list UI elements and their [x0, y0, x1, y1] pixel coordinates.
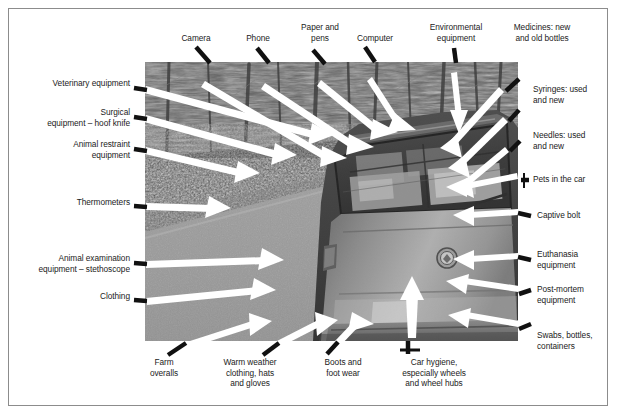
label-post-mortem-equipment: Post-mortem equipment [537, 284, 623, 305]
label-animal-examination-equipment: Animal examination equipment – stethosco… [12, 253, 130, 274]
label-thermometers: Thermometers [12, 197, 130, 208]
label-swabs-bottles-containers: Swabs, bottles, containers [537, 330, 623, 351]
label-syringes: Syringes: used and new [533, 84, 619, 105]
label-camera: Camera [163, 33, 229, 44]
label-veterinary-equipment: Veterinary equipment [12, 78, 130, 89]
label-needles: Needles: used and new [533, 130, 619, 151]
label-environmental-equipment: Environmental equipment [414, 22, 498, 43]
label-computer: Computer [341, 33, 409, 44]
vehicle-photograph [145, 62, 518, 341]
label-car-hygiene: Car hygiene, especially wheels and wheel… [372, 357, 496, 389]
label-farm-overalls: Farm overalls [128, 357, 200, 378]
figure-root: Camera Phone Paper and pens Computer Env… [0, 0, 625, 419]
label-clothing: Clothing [12, 291, 130, 302]
label-euthanasia-equipment: Euthanasia equipment [537, 249, 623, 270]
label-boots-and-foot-wear: Boots and foot wear [305, 357, 381, 378]
label-pets-in-the-car: Pets in the car [533, 174, 619, 185]
label-surgical-equipment: Surgical equipment – hoof knife [12, 107, 130, 128]
label-animal-restraint-equipment: Animal restraint equipment [12, 139, 130, 160]
label-phone: Phone [228, 33, 288, 44]
label-medicines: Medicines: new and old bottles [496, 22, 588, 43]
label-warm-weather-clothing: Warm weather clothing, hats and gloves [198, 357, 302, 389]
label-captive-bolt: Captive bolt [537, 210, 623, 221]
